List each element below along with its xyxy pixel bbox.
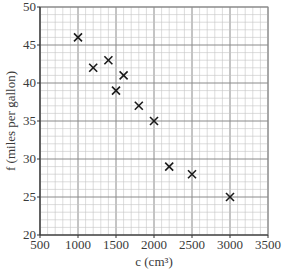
x-tick-label: 1500 xyxy=(103,237,129,252)
y-tick-label: 50 xyxy=(23,0,36,14)
x-tick-label: 3000 xyxy=(217,237,243,252)
x-axis-label: c (cm³) xyxy=(135,254,172,269)
y-tick-label: 20 xyxy=(23,227,36,242)
y-tick-label: 30 xyxy=(23,151,36,166)
scatter-chart: 500100015002000250030003500 202530354045… xyxy=(0,0,282,273)
y-tick-label: 45 xyxy=(23,37,36,52)
y-tick-labels: 20253035404550 xyxy=(23,0,36,242)
y-axis-label: f (miles per gallon) xyxy=(3,71,18,171)
y-tick-label: 35 xyxy=(23,113,36,128)
x-tick-label: 2500 xyxy=(179,237,205,252)
x-tick-label: 3500 xyxy=(255,237,281,252)
x-tick-labels: 500100015002000250030003500 xyxy=(30,237,281,252)
y-tick-label: 40 xyxy=(23,75,36,90)
x-tick-label: 1000 xyxy=(65,237,91,252)
y-tick-label: 25 xyxy=(23,189,36,204)
x-tick-label: 2000 xyxy=(141,237,167,252)
